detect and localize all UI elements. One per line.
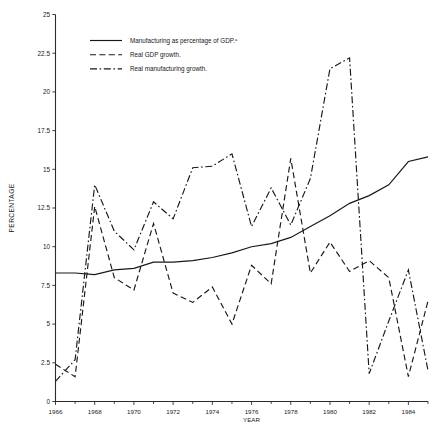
y-axis-title: PERCENTAGE <box>8 183 15 232</box>
x-axis-tick-label: 1966 <box>49 408 63 415</box>
y-axis-tick-label: 2.5 <box>41 359 50 366</box>
y-axis-tick-label: 17.5 <box>38 127 51 134</box>
x-axis-tick-label: 1980 <box>323 408 337 415</box>
x-axis-title: YEAR <box>243 416 260 423</box>
y-axis-tick-label: 22.5 <box>38 50 51 57</box>
y-axis-tick-label: 7.5 <box>41 282 50 289</box>
y-axis-tick-label: 12.5 <box>38 204 51 211</box>
chart-figure: 02.557.51012.51517.52022.525196619681970… <box>0 0 434 441</box>
axis-lines <box>56 15 429 402</box>
series-line-dashdot <box>56 58 429 382</box>
y-axis-tick-label: 5 <box>46 320 50 327</box>
x-axis-tick-label: 1982 <box>362 408 376 415</box>
legend-label: Real manufacturing growth. <box>130 65 207 73</box>
y-axis-tick-label: 15 <box>43 166 51 173</box>
y-axis-tick-label: 10 <box>43 243 51 250</box>
y-axis-tick-label: 0 <box>46 398 50 405</box>
legend-label: Manufacturing as percentage of GDP.a <box>130 37 238 45</box>
legend-footnote-marker: a <box>235 37 238 42</box>
line-chart-canvas: 02.557.51012.51517.52022.525196619681970… <box>0 0 434 441</box>
series-line-dashed <box>56 158 429 376</box>
x-axis-tick-label: 1970 <box>127 408 141 415</box>
x-axis-tick-label: 1984 <box>402 408 416 415</box>
y-axis-tick-label: 20 <box>43 88 51 95</box>
x-axis-tick-label: 1974 <box>205 408 219 415</box>
y-axis-tick-label: 25 <box>43 11 51 18</box>
x-axis-tick-label: 1978 <box>284 408 298 415</box>
x-axis-tick-label: 1968 <box>88 408 102 415</box>
x-axis-tick-label: 1976 <box>245 408 259 415</box>
series-line-solid <box>56 157 429 275</box>
x-axis-tick-label: 1972 <box>166 408 180 415</box>
legend-label: Real GDP growth. <box>130 51 181 59</box>
